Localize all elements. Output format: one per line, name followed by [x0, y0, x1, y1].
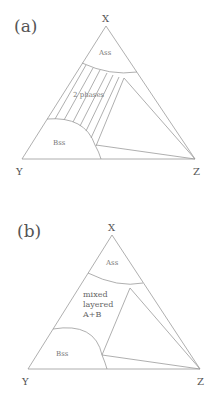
triangle-outline — [22, 26, 195, 159]
ass-z-tie-line — [124, 78, 195, 159]
panel-b-label: (b) — [17, 221, 41, 241]
mixed-layered-label-line3: A+B — [82, 310, 101, 319]
ass-boundary — [88, 273, 143, 284]
ass-region-label: Ass — [105, 259, 119, 267]
vertex-z-label: Z — [197, 376, 204, 387]
tie-line — [80, 73, 107, 126]
vertex-x-label: X — [102, 13, 110, 24]
ass-z-tie-line — [130, 288, 200, 369]
ternary-phase-diagrams: (a) X Y Z Ass Bss 2 phases (b) X Y Z — [0, 0, 222, 399]
two-phase-label: 2 phases — [73, 91, 105, 99]
ass-region-label: Ass — [98, 49, 112, 57]
two-phase-edge — [96, 78, 124, 146]
ass-boundary — [82, 63, 137, 73]
tie-line — [86, 75, 113, 131]
panel-a: (a) X Y Z Ass Bss 2 phases — [14, 13, 200, 177]
triangle-outline — [28, 235, 200, 369]
vertex-x-label: X — [108, 222, 116, 233]
tie-lines — [55, 65, 119, 138]
bss-region-label: Bss — [56, 350, 69, 358]
bss-region-label: Bss — [53, 139, 66, 147]
mixed-layered-label-line1: mixed — [83, 290, 108, 299]
vertex-y-label: Y — [15, 166, 23, 177]
panel-b: (b) X Y Z Ass Bss mixed layered A+B — [17, 221, 204, 387]
bss-z-tie-line — [96, 145, 195, 159]
mixed-layered-label-line2: layered — [83, 300, 113, 309]
tie-line — [91, 77, 119, 138]
bss-boundary — [53, 328, 107, 369]
panel-a-label: (a) — [14, 16, 37, 36]
vertex-y-label: Y — [21, 376, 29, 387]
vertex-z-label: Z — [193, 166, 200, 177]
bss-z-tie-line — [102, 355, 200, 369]
